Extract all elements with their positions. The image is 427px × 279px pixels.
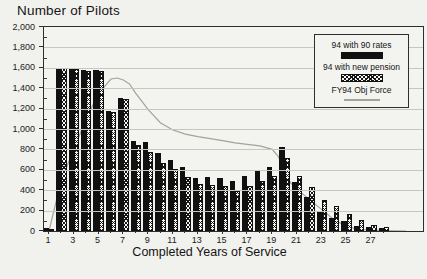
bar-crosshatch-year-21 [297, 176, 302, 231]
x-tick-label: 9 [138, 235, 156, 245]
x-tick [209, 231, 210, 233]
y-tick-minor [44, 58, 47, 59]
y-tick-label: 1,000 [0, 124, 35, 134]
x-tick [172, 231, 173, 234]
y-tick-label: 600 [0, 164, 35, 174]
gridline-1200 [44, 109, 423, 110]
bar-crosshatch-year-9 [148, 152, 153, 231]
chart-title: Number of Pilots [17, 3, 120, 18]
legend-swatch-line [344, 99, 380, 101]
y-tick-minor [44, 139, 47, 140]
x-tick [73, 231, 74, 234]
bar-crosshatch-year-25 [347, 214, 352, 231]
x-tick-label: 21 [287, 235, 305, 245]
x-tick-label: 11 [163, 235, 181, 245]
bar-crosshatch-year-11 [173, 169, 178, 231]
gridline-800 [44, 149, 423, 150]
x-tick [383, 231, 384, 233]
bar-crosshatch-year-23 [322, 200, 327, 231]
legend-label: 94 with 90 rates [315, 40, 408, 50]
pilots-chart: Number of Pilots 02004006008001,0001,200… [0, 0, 427, 279]
x-tick [296, 231, 297, 234]
x-tick [160, 231, 161, 233]
x-tick-label: 19 [262, 235, 280, 245]
y-tick-label: 2,000 [0, 22, 35, 32]
legend-label: 94 with new pension [315, 62, 408, 72]
bar-crosshatch-year-26 [359, 220, 364, 231]
x-tick-label: 27 [361, 235, 379, 245]
x-tick-label: 3 [64, 235, 82, 245]
x-tick [135, 231, 136, 233]
bar-crosshatch-year-18 [260, 181, 265, 231]
x-tick-label: 15 [213, 235, 231, 245]
bar-crosshatch-year-5 [99, 71, 104, 231]
bar-crosshatch-year-14 [210, 185, 215, 231]
x-tick [110, 231, 111, 233]
y-tick-label: 800 [0, 144, 35, 154]
x-tick [85, 231, 86, 233]
x-tick [234, 231, 235, 233]
y-tick-label: 1,400 [0, 83, 35, 93]
x-tick [284, 231, 285, 233]
y-tick-minor [44, 78, 47, 79]
x-tick [60, 231, 61, 233]
x-tick [246, 231, 247, 234]
y-tick-label: 1,200 [0, 103, 35, 113]
y-tick-label: 0 [0, 226, 35, 236]
bar-crosshatch-year-15 [223, 186, 228, 231]
y-tick-minor [44, 180, 47, 181]
bar-crosshatch-year-4 [86, 71, 91, 231]
legend: 94 with 90 rates94 with new pensionFY94 … [314, 34, 409, 108]
gridline-400 [44, 190, 423, 191]
legend-label: FY94 Obj Force [315, 85, 408, 95]
x-tick [259, 231, 260, 233]
x-tick [308, 231, 309, 233]
y-tick-minor [44, 37, 47, 38]
y-tick-label: 1,600 [0, 62, 35, 72]
bar-crosshatch-year-12 [185, 177, 190, 231]
x-tick-label: 1 [39, 235, 57, 245]
y-tick-minor [44, 200, 47, 201]
x-tick [222, 231, 223, 234]
gridline-1000 [44, 129, 423, 130]
x-tick [370, 231, 371, 234]
x-tick-label: 23 [312, 235, 330, 245]
x-tick-label: 13 [188, 235, 206, 245]
legend-swatch-solid [341, 52, 383, 59]
gridline-200 [44, 211, 423, 212]
bar-crosshatch-year-19 [272, 176, 277, 231]
bar-crosshatch-year-17 [247, 186, 252, 231]
x-tick [184, 231, 185, 233]
gridline-600 [44, 170, 423, 171]
x-tick [122, 231, 123, 234]
x-tick [271, 231, 272, 234]
x-tick [333, 231, 334, 233]
x-tick [147, 231, 148, 234]
y-tick-minor [44, 98, 47, 99]
y-tick-minor [44, 160, 47, 161]
bar-crosshatch-year-8 [136, 145, 141, 231]
x-tick-label: 17 [237, 235, 255, 245]
x-tick-label: 5 [89, 235, 107, 245]
y-axis: 02004006008001,0001,2001,4001,6001,8002,… [0, 26, 43, 232]
x-tick [346, 231, 347, 234]
y-tick-label: 200 [0, 205, 35, 215]
y-tick-minor [44, 119, 47, 120]
legend-swatch-crosshatch [341, 74, 383, 82]
y-tick-label: 400 [0, 185, 35, 195]
x-tick [358, 231, 359, 233]
bar-crosshatch-year-22 [309, 187, 314, 231]
y-tick-minor [44, 221, 47, 222]
x-tick [98, 231, 99, 234]
x-tick [48, 231, 49, 234]
y-tick-label: 1,800 [0, 42, 35, 52]
x-tick [321, 231, 322, 234]
x-tick [197, 231, 198, 234]
x-tick-label: 7 [113, 235, 131, 245]
bar-crosshatch-year-10 [161, 163, 166, 231]
x-axis-title: Completed Years of Service [20, 245, 399, 259]
x-tick-label: 25 [337, 235, 355, 245]
